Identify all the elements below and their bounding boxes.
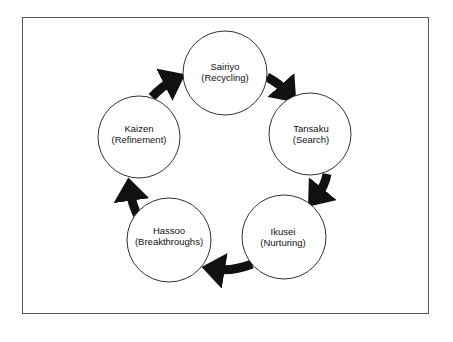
node-sairiyo: Sairiyo (Recycling) (183, 31, 267, 115)
node-subtitle: (Refinement) (112, 134, 167, 145)
node-title: Kaizen (124, 123, 153, 134)
arrow-kaizen-to-sairiyo (152, 80, 174, 97)
cycle-diagram: Sairiyo (Recycling) Tansaku (Search) Iku… (0, 0, 453, 342)
arrow-sairiyo-to-tansaku (267, 77, 288, 93)
node-ikusei: Ikusei (Nurturing) (242, 195, 326, 279)
node-title: Hassoo (153, 225, 185, 236)
node-kaizen: Kaizen (Refinement) (98, 96, 180, 178)
node-subtitle: (Search) (293, 134, 329, 145)
arrow-ikusei-to-hassoo (214, 264, 252, 270)
node-subtitle: (Recycling) (201, 72, 249, 83)
node-title: Tansaku (293, 123, 328, 134)
arrow-hassoo-to-kaizen (130, 190, 138, 216)
node-title: Sairiyo (210, 61, 239, 72)
node-title: Ikusei (271, 226, 296, 237)
node-tansaku: Tansaku (Search) (269, 93, 351, 175)
node-subtitle: (Breakthroughs) (135, 236, 203, 247)
arrow-tansaku-to-ikusei (316, 174, 327, 197)
node-subtitle: (Nurturing) (260, 237, 305, 248)
node-hassoo: Hassoo (Breakthroughs) (127, 198, 211, 282)
